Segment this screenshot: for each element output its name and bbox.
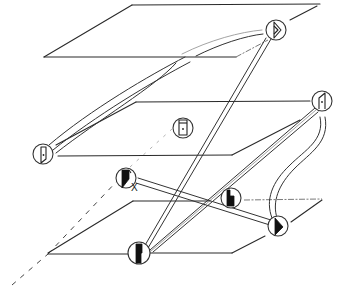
x-mark-label: X — [131, 182, 138, 193]
node-bottom-inner — [221, 188, 241, 208]
diagram-canvas: X — [0, 0, 339, 291]
node-middle-center — [173, 118, 193, 138]
tube-top-right-to-bottom-center — [144, 38, 271, 248]
node-middle-right — [312, 91, 332, 111]
tube-middle-left-to-top-right — [49, 30, 263, 153]
node-bottom-center — [128, 242, 150, 264]
tube-x-node-to-bottom-right — [136, 178, 274, 226]
node-top-right — [266, 20, 286, 40]
node-middle-left — [33, 144, 53, 164]
node-bottom-right — [268, 216, 288, 236]
node-floating-x: X — [116, 168, 138, 193]
filled-step-icon — [136, 244, 142, 263]
